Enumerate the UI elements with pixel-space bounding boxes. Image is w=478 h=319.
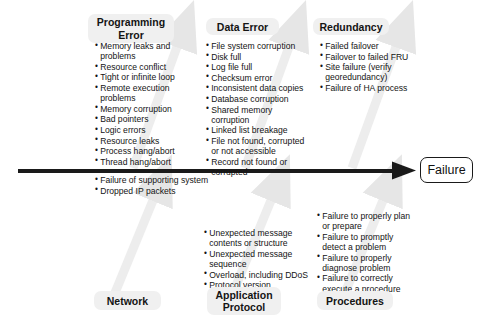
failure-node: Failure: [420, 157, 473, 183]
cause-item: Memory leaks and problems: [95, 41, 192, 61]
category-footer-label: Network: [107, 295, 148, 307]
cause-item: Log file full: [206, 62, 310, 72]
cause-item: Failure to properly diagnose problem: [317, 253, 417, 273]
cause-item: Shared memory corruption: [206, 105, 310, 125]
cause-item: Failover to failed FRU: [320, 52, 422, 62]
category-header-data-error: Data Error: [206, 18, 279, 35]
cause-item: Memory corruption: [95, 104, 192, 114]
cause-item: Disk full: [206, 52, 310, 62]
cause-item: Unexpected message sequence: [204, 249, 309, 269]
category-footer-label: Procedures: [326, 295, 384, 307]
cause-item: Logic errors: [95, 125, 192, 135]
category-header-label: Data Error: [217, 21, 268, 33]
cause-item: Checksum error: [206, 73, 310, 83]
cause-item: Failure to promptly detect a problem: [317, 232, 417, 252]
category-header-label: Redundancy: [319, 21, 382, 33]
cause-item: Linked list breakage: [206, 125, 310, 135]
cause-item: Remote execution problems: [95, 83, 192, 103]
cause-item: Resource conflict: [95, 62, 192, 72]
cause-item: Site failure (verify georedundancy): [320, 62, 422, 82]
category-footer-label: Application Protocol: [215, 289, 272, 314]
fishbone-diagram: Failure Programming Error Data Error Red…: [0, 0, 478, 319]
cause-item: Inconsistent data copies: [206, 83, 310, 93]
category-footer-procedures: Procedures: [317, 291, 393, 310]
causes-data-error: File system corruption Disk full Log fil…: [206, 41, 310, 178]
cause-item: File not found, corrupted or not accessi…: [206, 136, 310, 156]
causes-redundancy: Failed failover Failover to failed FRU S…: [320, 41, 422, 94]
cause-item: Bad pointers: [95, 114, 192, 124]
spine-arrow-head: [392, 160, 418, 181]
category-footer-network: Network: [94, 291, 161, 310]
category-header-redundancy: Redundancy: [313, 18, 389, 35]
category-footer-application-protocol: Application Protocol: [207, 287, 281, 315]
failure-node-label: Failure: [427, 163, 465, 177]
cause-item: Tight or infinite loop: [95, 72, 192, 82]
cause-item: Resource leaks: [95, 136, 192, 146]
causes-network: Failure of supporting system Dropped IP …: [95, 175, 235, 196]
cause-item: File system corruption: [206, 41, 310, 51]
cause-item: Process hang/abort: [95, 146, 192, 156]
cause-item: Thread hang/abort: [95, 157, 192, 167]
cause-item: Failed failover: [320, 41, 422, 51]
cause-item: Failure to properly plan or prepare: [317, 211, 417, 231]
cause-item: Failure of supporting system: [95, 175, 235, 185]
cause-item: Failure of HA process: [320, 83, 422, 93]
cause-item: Database corruption: [206, 94, 310, 104]
causes-procedures: Failure to properly plan or prepare Fail…: [317, 211, 417, 294]
cause-item: Unexpected message contents or structure: [204, 228, 309, 248]
category-header-programming-error: Programming Error: [88, 14, 174, 43]
category-header-label: Programming Error: [97, 16, 165, 41]
cause-item: Overload, including DDoS: [204, 270, 309, 280]
causes-programming-error: Memory leaks and problems Resource confl…: [95, 41, 192, 167]
cause-item: Dropped IP packets: [95, 186, 235, 196]
